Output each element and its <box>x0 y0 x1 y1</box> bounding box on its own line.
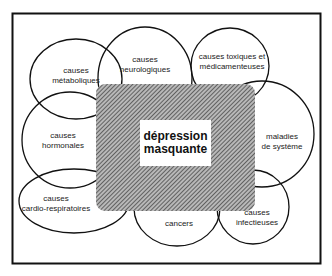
label-line: métaboliques <box>52 76 100 86</box>
diagram-canvas: dépression masquante causes métaboliques… <box>0 0 332 276</box>
label-cancers: cancers <box>165 219 193 229</box>
label-line: hormonales <box>42 141 84 151</box>
label-line: neurologiques <box>120 65 170 75</box>
center-label: dépression masquante <box>140 120 211 166</box>
label-metaboliques: causes métaboliques <box>52 66 100 86</box>
label-hormonales: causes hormonales <box>42 131 84 151</box>
center-label-line2: masquante <box>144 143 207 156</box>
label-line: maladies <box>262 132 303 142</box>
label-line: cancers <box>165 219 193 229</box>
label-cardio: causes cardio-respiratoires <box>22 194 90 214</box>
label-toxiques: causes toxiques et médicamenteuses <box>199 52 265 72</box>
label-line: causes <box>120 55 170 65</box>
label-line: causes <box>22 194 90 204</box>
label-line: de système <box>262 142 303 152</box>
label-line: causes <box>236 208 278 218</box>
label-line: cardio-respiratoires <box>22 204 90 214</box>
label-line: causes <box>42 131 84 141</box>
label-infectieuses: causes infectieuses <box>236 208 278 228</box>
label-neurologiques: causes neurologiques <box>120 55 170 75</box>
label-line: causes <box>52 66 100 76</box>
label-line: infectieuses <box>236 218 278 228</box>
label-line: médicamenteuses <box>199 62 265 72</box>
label-line: causes toxiques et <box>199 52 265 62</box>
label-systeme: maladies de système <box>262 132 303 152</box>
